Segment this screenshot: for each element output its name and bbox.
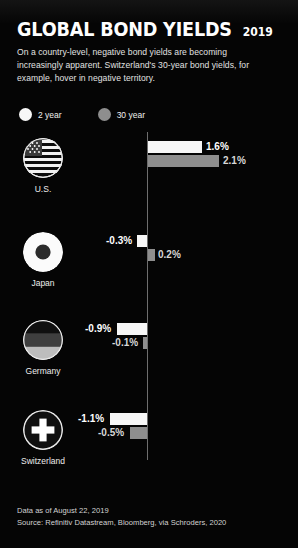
bar-value-2-year: 1.6%	[206, 141, 229, 153]
bar-value-30-year: 0.2%	[158, 249, 181, 261]
bar-2-year	[137, 235, 147, 247]
switzerland-flag-icon	[23, 410, 63, 450]
bar-2-year	[117, 323, 147, 335]
table-row: U.S. 1.6% 2.1%	[0, 136, 298, 226]
us-flag-icon	[23, 138, 63, 178]
country-label: Switzerland	[0, 456, 86, 466]
bar-2-year	[110, 413, 147, 425]
country-label: Japan	[0, 278, 86, 288]
infographic-canvas: GLOBAL BOND YIELDS 2019 On a country-lev…	[0, 0, 298, 548]
footer-source: Source: Refinitiv Datastream, Bloomberg,…	[17, 517, 226, 529]
country-label: Germany	[0, 366, 86, 376]
bar-value-2-year: -0.3%	[106, 235, 132, 247]
table-row: Japan -0.3% 0.2%	[0, 230, 298, 320]
germany-flag-icon	[23, 320, 63, 360]
bar-2-year	[148, 141, 202, 153]
bar-value-2-year: -0.9%	[85, 323, 111, 335]
bar-30-year	[143, 337, 147, 349]
country-label: U.S.	[0, 184, 86, 194]
chart-rows: U.S. 1.6% 2.1% Japan -0.3% 0.2%	[0, 0, 298, 548]
footer-data-date: Data as of August 22, 2019	[17, 505, 226, 517]
bar-value-30-year: 2.1%	[223, 155, 246, 167]
table-row: Switzerland -1.1% -0.5%	[0, 408, 298, 498]
bar-30-year	[148, 155, 219, 167]
footer-sources: Data as of August 22, 2019 Source: Refin…	[17, 505, 226, 528]
table-row: Germany -0.9% -0.1%	[0, 318, 298, 408]
bar-value-2-year: -1.1%	[78, 413, 104, 425]
bar-value-30-year: -0.1%	[112, 337, 138, 349]
bar-30-year	[148, 249, 155, 261]
bar-value-30-year: -0.5%	[98, 427, 124, 439]
bar-30-year	[130, 427, 147, 439]
japan-flag-icon	[23, 232, 63, 272]
